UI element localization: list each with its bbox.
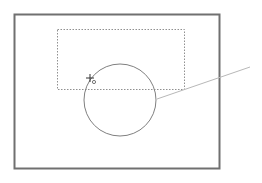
drawing-canvas[interactable] bbox=[0, 0, 262, 183]
page-frame bbox=[15, 15, 220, 169]
